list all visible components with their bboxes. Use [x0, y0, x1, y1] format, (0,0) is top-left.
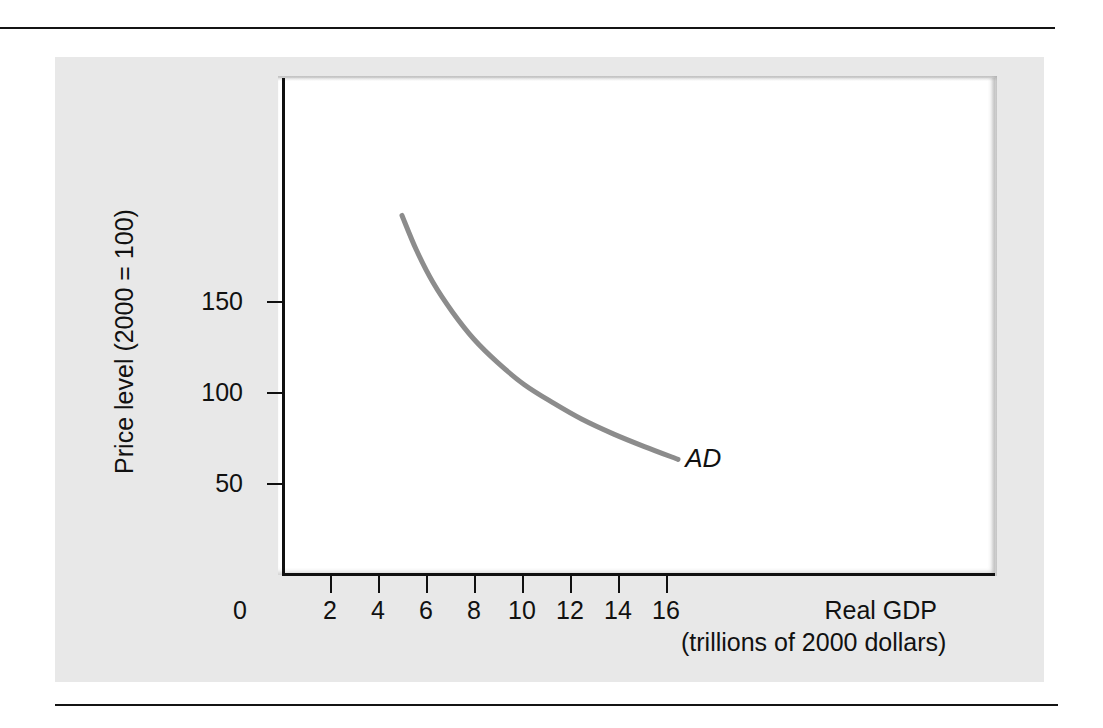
x-tick-label: 2	[323, 596, 337, 625]
x-tick-mark	[330, 576, 332, 593]
x-tick-label: 4	[371, 596, 385, 625]
x-tick-label: 12	[556, 596, 584, 625]
x-axis-line	[282, 573, 995, 576]
x-tick-mark	[378, 576, 380, 593]
figure-bottom-rule	[55, 704, 1058, 706]
x-tick-mark	[522, 576, 524, 593]
x-tick-mark	[618, 576, 620, 593]
plot-area	[278, 78, 995, 575]
x-axis-title-line-2: (trillions of 2000 dollars)	[681, 626, 946, 658]
x-tick-label: 14	[604, 596, 632, 625]
y-tick-mark	[267, 392, 283, 394]
x-tick-mark	[426, 576, 428, 593]
figure-panel: 0246810121416 50100150 AD Price level (2…	[55, 57, 1044, 682]
y-axis-ticks: 50100150	[55, 57, 258, 682]
x-axis-title-line-1: Real GDP	[815, 594, 946, 626]
ad-curve-label: AD	[685, 443, 721, 474]
x-axis-title: Real GDP (trillions of 2000 dollars)	[815, 594, 946, 658]
x-tick-mark	[570, 576, 572, 593]
y-tick-label: 150	[55, 287, 243, 316]
y-tick-mark	[267, 483, 283, 485]
x-tick-label: 6	[419, 596, 433, 625]
x-tick-label: 10	[508, 596, 536, 625]
y-axis-line	[282, 78, 285, 576]
y-tick-label: 100	[55, 378, 243, 407]
figure-top-rule	[0, 27, 1055, 29]
y-tick-mark	[267, 301, 283, 303]
x-tick-mark	[474, 576, 476, 593]
x-tick-label: 8	[467, 596, 481, 625]
y-tick-label: 50	[55, 469, 243, 498]
y-axis-title: Price level (2000 = 100)	[110, 172, 139, 512]
x-tick-mark	[666, 576, 668, 593]
x-tick-label: 16	[652, 596, 680, 625]
